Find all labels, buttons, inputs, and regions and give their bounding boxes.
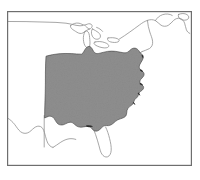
map-figure	[0, 0, 200, 180]
figure-root	[0, 0, 200, 180]
